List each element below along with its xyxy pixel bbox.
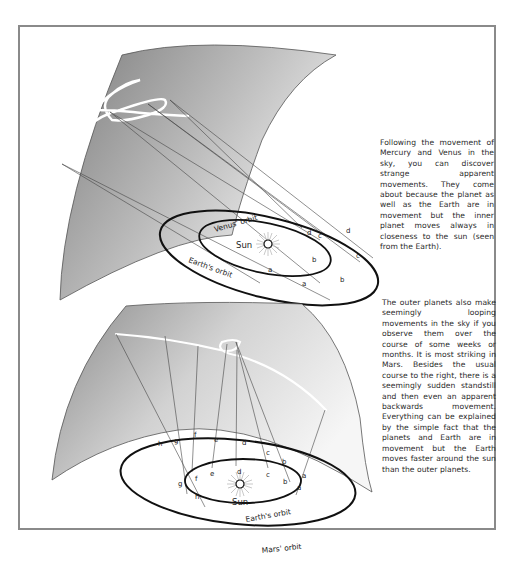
point-label: c (266, 449, 270, 457)
point-label: d (242, 439, 246, 447)
point-label: f (195, 475, 198, 483)
top-diagram: Sun Venus' orbit Earth's orbit a b c d a… (60, 45, 387, 324)
point-label: h (158, 440, 162, 448)
point-label: b (340, 276, 345, 284)
mars-orbit-label: Mars' orbit (261, 542, 302, 555)
bottom-diagram: Sun Earth's orbit Mars' orbit a b c d e … (52, 302, 372, 555)
point-label: g (178, 480, 182, 488)
point-label: e (214, 436, 218, 444)
point-label: d (346, 227, 350, 235)
point-label: a (268, 266, 272, 274)
point-label: a (302, 280, 306, 288)
earth-orbit-label-bottom: Earth's orbit (245, 507, 292, 524)
earth-orbit-label-top: Earth's orbit (187, 255, 233, 279)
sun-label-top: Sun (236, 240, 252, 250)
sky-sheet-bottom (52, 302, 372, 492)
point-label: b (283, 478, 288, 486)
astronomy-illustration: Sun Venus' orbit Earth's orbit a b c d a… (0, 0, 513, 566)
caption-inner-planets: Following the movement of Mercury and Ve… (380, 138, 494, 252)
caption-outer-planets: The outer planets also make seemingly lo… (382, 298, 496, 475)
point-label: a (297, 484, 301, 492)
point-label: d (307, 229, 311, 237)
point-label: c (318, 232, 322, 240)
point-label: h (195, 493, 199, 501)
sun-icon-top (256, 232, 280, 256)
point-label: b (282, 458, 287, 466)
point-label: e (210, 470, 214, 478)
point-label: c (356, 252, 360, 260)
point-label: b (312, 256, 317, 264)
sun-label-bottom: Sun (232, 497, 248, 507)
point-label: d (237, 468, 241, 476)
point-label: g (174, 437, 178, 445)
point-label: a (302, 472, 306, 480)
point-label: c (266, 471, 270, 479)
